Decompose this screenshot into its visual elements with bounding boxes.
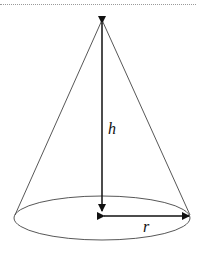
cone-left-edge — [15, 20, 102, 215]
height-label: h — [108, 120, 116, 137]
radius-label: r — [143, 218, 150, 235]
cone-right-edge — [102, 20, 190, 215]
cone-diagram: h r — [0, 0, 202, 259]
